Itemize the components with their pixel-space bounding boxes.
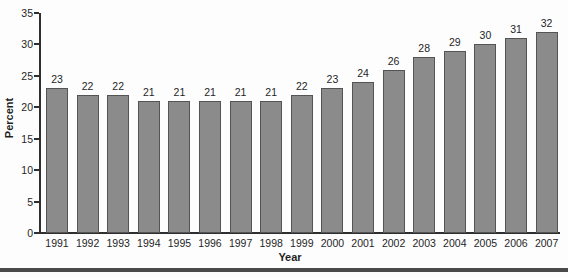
bar bbox=[383, 70, 405, 233]
y-tick-label: 10 bbox=[0, 164, 33, 176]
bottom-divider bbox=[0, 268, 568, 272]
bar-value-label: 23 bbox=[42, 73, 72, 85]
y-tick-label: 25 bbox=[0, 70, 33, 82]
bar bbox=[352, 82, 374, 233]
y-tick-mark bbox=[34, 169, 39, 171]
y-tick-mark bbox=[34, 43, 39, 45]
bar bbox=[291, 95, 313, 233]
bar bbox=[107, 95, 129, 233]
bar-value-label: 31 bbox=[501, 23, 531, 35]
y-tick-mark bbox=[34, 201, 39, 203]
bar-value-label: 30 bbox=[470, 29, 500, 41]
bar-value-label: 28 bbox=[409, 42, 439, 54]
bar bbox=[413, 57, 435, 233]
y-tick-label: 15 bbox=[0, 133, 33, 145]
bar bbox=[199, 101, 221, 233]
y-tick-mark bbox=[34, 106, 39, 108]
bar-value-label: 21 bbox=[256, 86, 286, 98]
bar bbox=[138, 101, 160, 233]
bar bbox=[505, 38, 527, 233]
bar-value-label: 23 bbox=[317, 73, 347, 85]
bar-value-label: 21 bbox=[226, 86, 256, 98]
bar bbox=[321, 88, 343, 233]
y-tick-mark bbox=[34, 12, 39, 14]
bar bbox=[168, 101, 190, 233]
bar bbox=[77, 95, 99, 233]
bar-value-label: 32 bbox=[532, 17, 562, 29]
bar bbox=[536, 32, 558, 233]
x-tick-label: 2007 bbox=[529, 237, 565, 249]
y-tick-label: 35 bbox=[0, 7, 33, 19]
bar-value-label: 22 bbox=[103, 80, 133, 92]
bar-value-label: 26 bbox=[379, 55, 409, 67]
bar-chart: Percent 05101520253035 23222221212121212… bbox=[0, 0, 568, 277]
bar-value-label: 21 bbox=[195, 86, 225, 98]
y-tick-label: 20 bbox=[0, 101, 33, 113]
x-axis-title: Year bbox=[40, 251, 540, 263]
bar-value-label: 21 bbox=[134, 86, 164, 98]
bar bbox=[444, 51, 466, 233]
bar bbox=[474, 44, 496, 233]
bar-value-label: 24 bbox=[348, 67, 378, 79]
figure: Percent 05101520253035 23222221212121212… bbox=[0, 0, 568, 277]
y-tick-mark bbox=[34, 75, 39, 77]
bar bbox=[260, 101, 282, 233]
bar-value-label: 21 bbox=[164, 86, 194, 98]
bar bbox=[230, 101, 252, 233]
y-tick-label: 0 bbox=[0, 227, 33, 239]
y-tick-mark bbox=[34, 232, 39, 234]
bar bbox=[46, 88, 68, 233]
bar-value-label: 29 bbox=[440, 36, 470, 48]
y-tick-label: 5 bbox=[0, 196, 33, 208]
y-axis-line bbox=[39, 13, 41, 234]
y-tick-mark bbox=[34, 138, 39, 140]
bar-value-label: 22 bbox=[73, 80, 103, 92]
y-tick-label: 30 bbox=[0, 38, 33, 50]
bar-value-label: 22 bbox=[287, 80, 317, 92]
